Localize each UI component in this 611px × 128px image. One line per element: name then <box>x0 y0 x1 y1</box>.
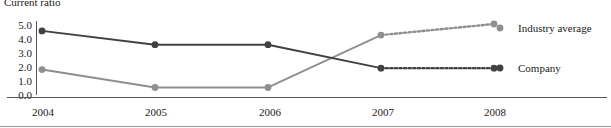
x-tick-label-2007: 2007 <box>353 106 413 118</box>
data-point-marker <box>39 28 46 35</box>
series-line-segment <box>268 35 381 87</box>
current-ratio-chart: Current ratio 5.0 4.0 3.0 2.0 1.0 0.0 20… <box>0 0 611 128</box>
x-tick-label-2006: 2006 <box>240 106 300 118</box>
data-point-marker <box>152 41 159 48</box>
x-tick-label-2005: 2005 <box>126 106 186 118</box>
series-line-segment <box>381 24 494 35</box>
x-tick-label-2004: 2004 <box>13 106 73 118</box>
footer-divider <box>0 126 611 127</box>
data-point-marker <box>378 32 385 39</box>
legend-marker <box>497 65 504 72</box>
series-line-segment <box>268 45 381 68</box>
data-point-marker <box>152 84 159 91</box>
data-point-marker <box>265 41 272 48</box>
series-industry-average <box>39 21 504 91</box>
series-line-segment <box>42 31 155 45</box>
data-point-marker <box>265 84 272 91</box>
legend-label-industry-average: Industry average <box>518 22 592 34</box>
data-point-marker <box>39 66 46 73</box>
data-point-marker <box>491 21 498 28</box>
x-tick-label-2008: 2008 <box>465 106 525 118</box>
legend-marker <box>497 25 504 32</box>
data-point-marker <box>378 65 385 72</box>
legend-label-company: Company <box>518 62 561 74</box>
data-point-marker <box>491 65 498 72</box>
series-company <box>39 28 504 72</box>
series-line-segment <box>42 70 155 88</box>
